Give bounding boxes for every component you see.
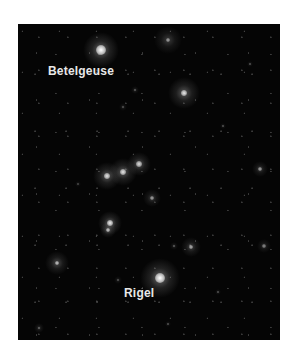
orion-star-field-photo: Betelgeuse Rigel [18, 24, 280, 340]
star-saiph-area [55, 261, 59, 265]
label-betelgeuse: Betelgeuse [48, 64, 114, 78]
star-sword-2 [106, 228, 110, 232]
star-star-n [77, 183, 79, 185]
label-rigel: Rigel [124, 286, 154, 300]
star-rigel [155, 273, 165, 283]
star-betelgeuse [96, 45, 106, 55]
star-star-c [258, 167, 262, 171]
star-star-j [222, 125, 224, 127]
star-star-k [249, 63, 251, 65]
star-star-e [38, 327, 40, 329]
star-meissa [166, 38, 170, 42]
star-star-f [134, 89, 136, 91]
star-star-g [122, 106, 124, 108]
star-mintaka [136, 161, 142, 167]
star-star-i [117, 279, 119, 281]
star-bellatrix [181, 90, 187, 96]
star-star-m [167, 323, 169, 325]
star-star-h [173, 245, 175, 247]
star-star-d [262, 244, 266, 248]
star-alnilam [120, 169, 126, 175]
star-star-l [217, 291, 219, 293]
star-star-a [150, 196, 154, 200]
star-star-b [189, 245, 193, 249]
